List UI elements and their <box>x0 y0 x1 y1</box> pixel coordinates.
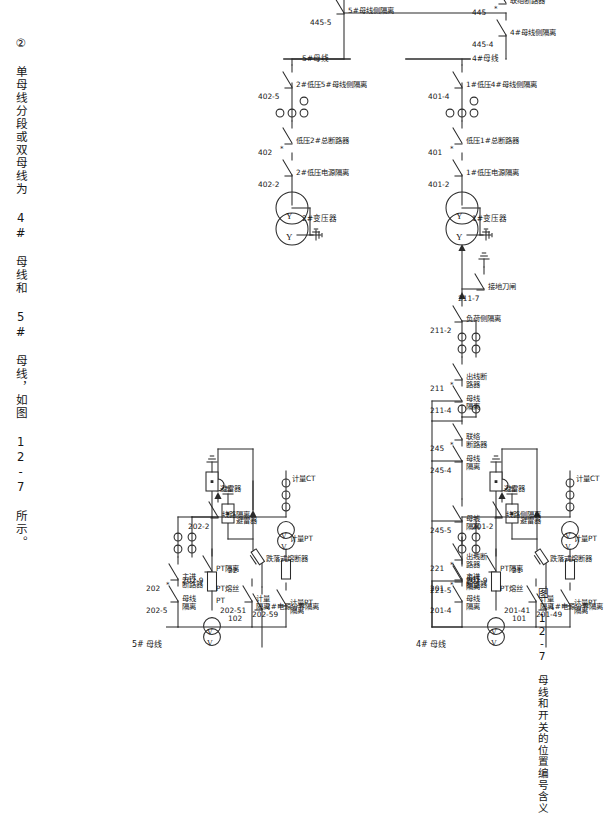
ct-401-4 <box>470 97 478 105</box>
label-211-number: 211 <box>430 385 444 393</box>
breaker-201-blade <box>453 564 462 579</box>
pt-201-v2: V <box>491 629 497 638</box>
label-401-number: 401 <box>428 149 442 157</box>
label-221-5-name: 母线 隔离 <box>466 575 480 591</box>
label-245-name: 联络 断路器 <box>466 433 487 449</box>
disconnector-445-4-blade <box>497 20 506 35</box>
label-transformer-2: 2#变压器 <box>302 215 337 224</box>
breaker-221-blade <box>453 544 462 559</box>
ct-401-1 <box>446 109 454 117</box>
breaker-401-star: * <box>450 146 454 154</box>
label-221-number: 221 <box>430 565 444 573</box>
breaker-221-star: * <box>450 562 454 570</box>
disconnector-202-51-blade <box>243 586 252 601</box>
ct-402-3 <box>300 109 308 117</box>
diagram-canvas: 1022#电源分界隔离22跌落式熔断器避雷器202-2线路隔离202-5母线 隔… <box>166 0 608 667</box>
label-245-number: 245 <box>430 445 444 453</box>
arrester-202-dot <box>211 480 214 483</box>
label-201-2-name: 线路侧隔离 <box>506 511 541 519</box>
label-102-number: 102 <box>228 615 242 623</box>
label-202-9-number: 202-9 <box>182 577 203 585</box>
ct-402-1 <box>276 109 284 117</box>
label-21-name: 跌落式熔断器 <box>550 555 592 563</box>
label-transformer-1: 1#变压器 <box>472 215 507 224</box>
disconnector-402-2-blade <box>283 160 292 175</box>
pt-202-v1: V <box>207 640 213 649</box>
earth-switch-211-7-blade <box>475 274 484 289</box>
breaker-402-star: * <box>280 146 284 154</box>
label-211-name: 出线断 路器 <box>466 373 487 389</box>
breaker-445-blade <box>497 0 506 3</box>
label-201-meterct: 计量CT <box>576 475 600 483</box>
label-201-4-name: 母线 隔离 <box>466 595 480 611</box>
label-445-5-number: 445-5 <box>310 19 331 27</box>
label-401-name: 低压1#总断路器 <box>466 137 519 145</box>
label-202-pt-tag: PT <box>216 597 225 605</box>
label-245-5-name: 母线 隔离 <box>466 515 480 531</box>
label-211-7-number: 211-7 <box>458 295 479 303</box>
disconnector-401-2-blade <box>453 160 462 175</box>
breaker-401-blade <box>453 128 462 143</box>
label-401-2-number: 401-2 <box>428 181 449 189</box>
disconnector-201-41-blade <box>527 586 536 601</box>
arrester-201-dot <box>495 480 498 483</box>
disconnector-221-5-blade <box>453 566 462 581</box>
disconnector-401-4-blade <box>453 72 462 87</box>
label-402-2-name: 2#低压电源隔离 <box>296 169 349 177</box>
transformer-2-hv-y: Y <box>286 233 293 243</box>
label-201-meterpt: 计量PT <box>574 535 597 543</box>
label-202-ptfuse: PT熔丝 <box>216 585 239 593</box>
label-445-4-name: 4#母线侧隔离 <box>510 29 556 37</box>
breaker-202-blade <box>169 564 178 579</box>
label-245-5-number: 245-5 <box>430 527 451 535</box>
breaker-402-blade <box>283 128 292 143</box>
disconnector-402-5-blade <box>283 72 292 87</box>
label-445-5-name: 5#母线侧隔离 <box>348 7 394 15</box>
label-402-5-name: 2#低压5#母线侧隔离 <box>296 81 367 89</box>
disconnector-201-9-blade <box>487 556 496 571</box>
label-402-2-number: 402-2 <box>258 181 279 189</box>
disconnector-202-9-blade <box>203 556 212 571</box>
body-paragraph: ② 单母线分段或双母线为 4# 母线和 5# 母线，如图 12-7 所示。 <box>12 36 32 549</box>
disconnector-201-4-blade <box>453 586 462 601</box>
label-221-5-number: 221-5 <box>430 587 451 595</box>
label-202-9-name: PT隔离 <box>216 565 239 573</box>
label-201-arrester: 避雷器 <box>504 485 525 493</box>
label-245-4-number: 245-4 <box>430 467 451 475</box>
breaker-202-star: * <box>166 582 170 590</box>
label-211-4-number: 211-4 <box>430 407 451 415</box>
label-202-2-number: 202-2 <box>188 523 209 531</box>
breaker-211-blade <box>453 364 462 379</box>
disconnector-245-4-blade <box>453 446 462 461</box>
label-bus5: 5# 母线 <box>132 641 162 650</box>
label-202-5-name: 母线 隔离 <box>182 595 196 611</box>
transformer-2-lv-y: Y <box>286 212 293 222</box>
label-201-49-name: 计量PT 隔离 <box>574 599 597 615</box>
disconnector-202-2-blade <box>209 502 218 517</box>
label-202-2-name: 线路隔离 <box>222 511 250 519</box>
breaker-245-blade <box>453 424 462 439</box>
label-201-49-number: 201-49 <box>536 611 562 619</box>
breaker-245-star: * <box>450 442 454 450</box>
pt-201-v1: V <box>491 640 497 649</box>
disconnector-211-4-blade <box>453 386 462 401</box>
meter-pt-202-v2: V <box>281 533 287 542</box>
label-402-5-number: 402-5 <box>258 93 279 101</box>
disconnector-445-5-blade <box>335 0 344 13</box>
label-445-number: 445 <box>472 9 486 17</box>
label-22-name: 跌落式熔断器 <box>266 555 308 563</box>
label-202-number: 202 <box>146 585 160 593</box>
label-211-2-name: 负荷侧隔离 <box>466 315 501 323</box>
label-211-2-number: 211-2 <box>430 327 451 335</box>
meter-pt-201-v2: V <box>565 533 571 542</box>
breaker-445-star: * <box>494 6 498 14</box>
label-245-4-name: 母线 隔离 <box>466 455 480 471</box>
meter-pt-201-v1: V <box>565 544 571 553</box>
label-221-name: 出线断 路器 <box>466 553 487 569</box>
pt-202-v2: V <box>207 629 213 638</box>
label-lv-bus4: 4#母线 <box>472 55 499 64</box>
label-lv-bus5: 5#母线 <box>302 55 329 64</box>
breaker-211-star: * <box>450 382 454 390</box>
ct-402-4 <box>300 97 308 105</box>
